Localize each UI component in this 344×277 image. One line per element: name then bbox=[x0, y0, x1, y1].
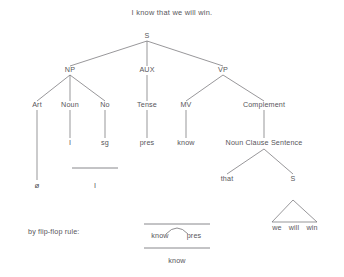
terminal-know: know bbox=[177, 139, 194, 146]
edge-np-art bbox=[37, 75, 70, 101]
node-no: No bbox=[100, 101, 110, 108]
edge-s-np bbox=[70, 41, 147, 66]
terminal-pres: pres bbox=[140, 139, 155, 146]
edge-clause-that bbox=[227, 149, 264, 174]
node-art: Art bbox=[32, 101, 42, 108]
node-noun: Noun bbox=[61, 101, 79, 108]
edge-s-vp bbox=[147, 41, 223, 66]
embedded-s-triangle bbox=[272, 200, 317, 222]
node-vp: VP bbox=[218, 66, 228, 73]
flipflop-arc bbox=[166, 228, 188, 234]
flipflop-numerator-know: know bbox=[151, 232, 168, 239]
terminal-that: that bbox=[221, 175, 234, 182]
edge-vp-mv bbox=[186, 75, 223, 101]
node-s-root: S bbox=[145, 32, 150, 39]
node-np: NP bbox=[65, 66, 75, 73]
node-complement: Complement bbox=[243, 101, 285, 108]
flipflop-result-know: know bbox=[168, 257, 185, 264]
terminal-i: I bbox=[69, 139, 71, 146]
flip-flop-rule-note: by flip-flop rule: bbox=[28, 228, 79, 235]
edge-clause-s bbox=[264, 149, 293, 174]
flipflop-numerator-pres: pres bbox=[187, 232, 202, 239]
terminal-win: win bbox=[306, 224, 317, 231]
example-sentence: I know that we will win. bbox=[132, 9, 213, 16]
terminal-we: we bbox=[272, 224, 282, 231]
node-noun-clause-sentence: Noun Clause Sentence bbox=[226, 139, 303, 146]
syntax-tree-figure: I know that we will win. S NP AUX VP Art… bbox=[0, 0, 344, 277]
node-mv: MV bbox=[180, 101, 191, 108]
node-aux: AUX bbox=[139, 66, 154, 73]
terminal-i-collapsed: I bbox=[94, 182, 96, 189]
terminal-sg: sg bbox=[101, 139, 109, 146]
terminal-phi: ø bbox=[34, 182, 39, 190]
node-tense: Tense bbox=[137, 101, 157, 108]
node-s-embedded: S bbox=[291, 175, 296, 182]
terminal-will: will bbox=[289, 224, 300, 231]
edge-vp-complement bbox=[223, 75, 264, 101]
edge-np-no bbox=[70, 75, 105, 101]
